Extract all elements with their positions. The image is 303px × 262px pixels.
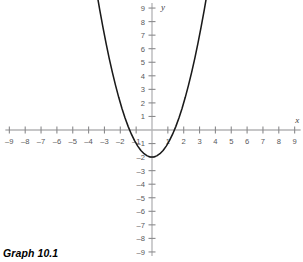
y-tick-label: –6 [137, 207, 145, 216]
x-tick-label: –9 [5, 137, 13, 146]
x-tick-label: –2 [116, 137, 124, 146]
y-tick-label: 1 [141, 112, 145, 121]
y-tick-label: –3 [137, 167, 145, 176]
x-tick-label: –5 [69, 137, 77, 146]
y-axis-label: y [160, 2, 165, 12]
y-tick-label: 8 [141, 18, 145, 27]
x-tick-label: –6 [53, 137, 61, 146]
y-tick-label: 3 [141, 85, 145, 94]
y-tick-label: –8 [137, 234, 145, 243]
x-tick-label: 6 [245, 137, 249, 146]
x-tick-label: 5 [229, 137, 233, 146]
x-axis-label: x [294, 115, 299, 125]
x-axis-tick-labels: –9–8–7–6–5–4–3–2–1123456789 [5, 137, 297, 146]
x-tick-label: 2 [182, 137, 186, 146]
graph-figure: –9–8–7–6–5–4–3–2–1123456789 987654321–1–… [0, 0, 303, 262]
x-tick-label: –7 [37, 137, 45, 146]
x-tick-label: 7 [261, 137, 265, 146]
figure-caption: Graph 10.1 [3, 247, 58, 259]
x-tick-label: 3 [197, 137, 201, 146]
y-tick-label: –4 [137, 180, 145, 189]
y-tick-label: –7 [137, 221, 145, 230]
x-tick-label: –4 [84, 137, 92, 146]
y-tick-label: 7 [141, 31, 145, 40]
y-tick-label: 4 [141, 72, 145, 81]
y-tick-label: 5 [141, 58, 145, 67]
x-tick-label: 8 [277, 137, 281, 146]
y-tick-label: 2 [141, 99, 145, 108]
y-tick-label: 6 [141, 45, 145, 54]
x-tick-label: 9 [293, 137, 297, 146]
x-tick-label: –8 [21, 137, 29, 146]
x-tick-label: –3 [100, 137, 108, 146]
y-tick-label: 9 [141, 4, 145, 13]
y-tick-label: –5 [137, 194, 145, 203]
x-tick-label: 4 [213, 137, 217, 146]
cartesian-plot: –9–8–7–6–5–4–3–2–1123456789 987654321–1–… [0, 0, 303, 262]
y-tick-label: –9 [137, 248, 145, 257]
